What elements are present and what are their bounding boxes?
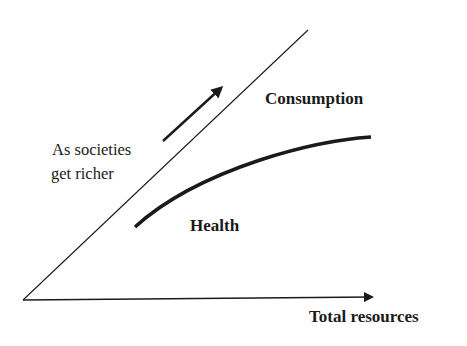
richer-direction-arrow xyxy=(163,88,221,141)
x-axis-label: Total resources xyxy=(309,308,419,325)
x-axis-arrow xyxy=(23,297,372,300)
annotation-line-1: As societies xyxy=(52,142,131,159)
health-label: Health xyxy=(190,217,239,234)
health-consumption-curve xyxy=(135,137,371,227)
annotation-line-2: get richer xyxy=(51,166,114,183)
consumption-label: Consumption xyxy=(265,90,363,107)
